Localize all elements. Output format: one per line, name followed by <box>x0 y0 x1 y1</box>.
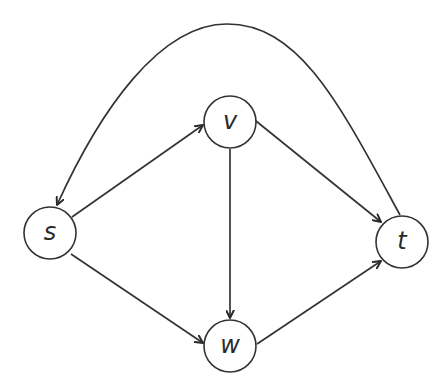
node-s: s <box>24 207 76 259</box>
node-s-label: s <box>44 218 57 246</box>
node-w-label: w <box>220 331 240 359</box>
node-w: w <box>204 320 256 372</box>
edge-v-to-t <box>256 121 381 222</box>
directed-graph-diagram: s v w t <box>0 0 447 391</box>
node-v: v <box>204 96 256 148</box>
edges <box>57 24 400 344</box>
edge-s-to-w <box>71 254 203 343</box>
node-t-label: t <box>397 227 408 255</box>
node-v-label: v <box>223 107 238 135</box>
edge-w-to-t <box>257 261 381 344</box>
node-t: t <box>376 216 428 268</box>
